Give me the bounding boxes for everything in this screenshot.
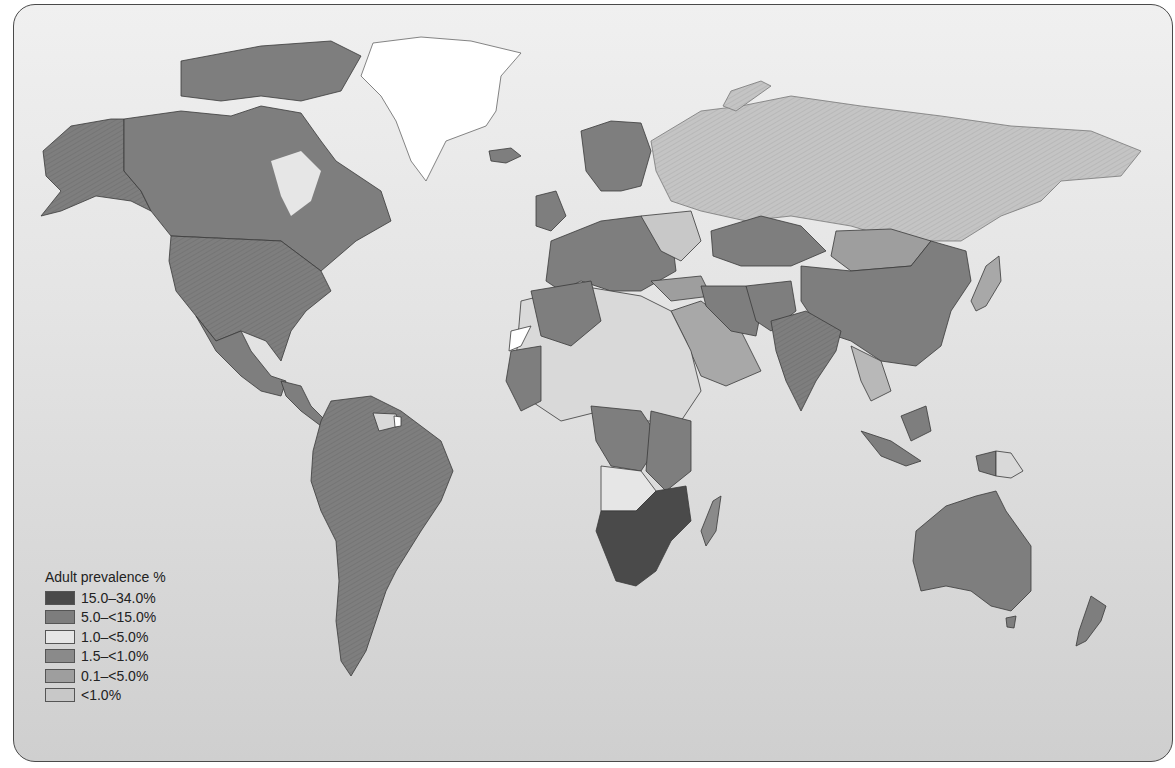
legend-item: <1.0% [45,686,166,706]
legend-item: 0.1–<5.0% [45,666,166,686]
region-central-america[interactable] [281,381,326,426]
region-madagascar[interactable] [701,496,721,546]
legend-label: 5.0–<15.0% [81,609,156,625]
legend-swatch [45,630,75,644]
region-south-america[interactable] [311,396,453,676]
legend-label: <1.0% [81,687,121,703]
legend-label: 1.5–<1.0% [81,648,148,664]
legend-swatch [45,649,75,663]
region-borneo[interactable] [901,406,931,441]
region-papua[interactable] [976,451,996,476]
region-australia[interactable] [913,491,1031,611]
legend-item: 1.0–<5.0% [45,627,166,647]
map-frame: Adult prevalence % 15.0–34.0% 5.0–<15.0%… [13,4,1173,762]
legend-item: 5.0–<15.0% [45,608,166,628]
legend-label: 1.0–<5.0% [81,629,148,645]
region-japan[interactable] [971,256,1001,311]
legend-swatch [45,610,75,624]
region-west-africa[interactable] [506,346,541,411]
region-kazakhstan[interactable] [711,216,826,266]
region-png[interactable] [996,451,1023,478]
legend-swatch [45,669,75,683]
region-new-zealand[interactable] [1076,596,1106,646]
legend-label: 0.1–<5.0% [81,668,148,684]
legend-title: Adult prevalence % [45,569,166,585]
region-east-africa[interactable] [646,411,691,491]
region-french-guiana[interactable] [394,416,401,427]
region-india[interactable] [771,311,841,411]
world-map [14,5,1173,762]
legend-label: 15.0–34.0% [81,590,156,606]
region-canada-arctic[interactable] [181,41,361,101]
region-russia[interactable] [651,96,1141,241]
legend-item: 15.0–34.0% [45,588,166,608]
legend-item: 1.5–<1.0% [45,647,166,667]
region-uk[interactable] [536,191,566,231]
region-tasmania[interactable] [1006,616,1016,628]
region-scandinavia[interactable] [581,121,651,191]
legend-swatch [45,688,75,702]
legend: Adult prevalence % 15.0–34.0% 5.0–<15.0%… [45,569,166,705]
legend-swatch [45,591,75,605]
region-iceland[interactable] [489,148,521,163]
